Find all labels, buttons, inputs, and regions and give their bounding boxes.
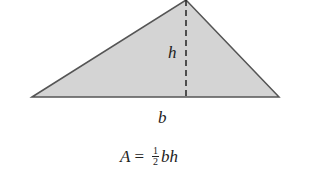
formula-area-symbol: A: [120, 147, 130, 167]
area-formula: A = 1 2 bh: [120, 146, 178, 167]
height-label: h: [168, 44, 177, 61]
formula-fraction: 1 2: [152, 146, 159, 167]
fraction-denominator: 2: [153, 157, 158, 167]
triangle-shape: [32, 0, 279, 97]
formula-equals: =: [134, 147, 144, 167]
base-label: b: [158, 109, 167, 126]
formula-base-height: bh: [161, 147, 178, 167]
